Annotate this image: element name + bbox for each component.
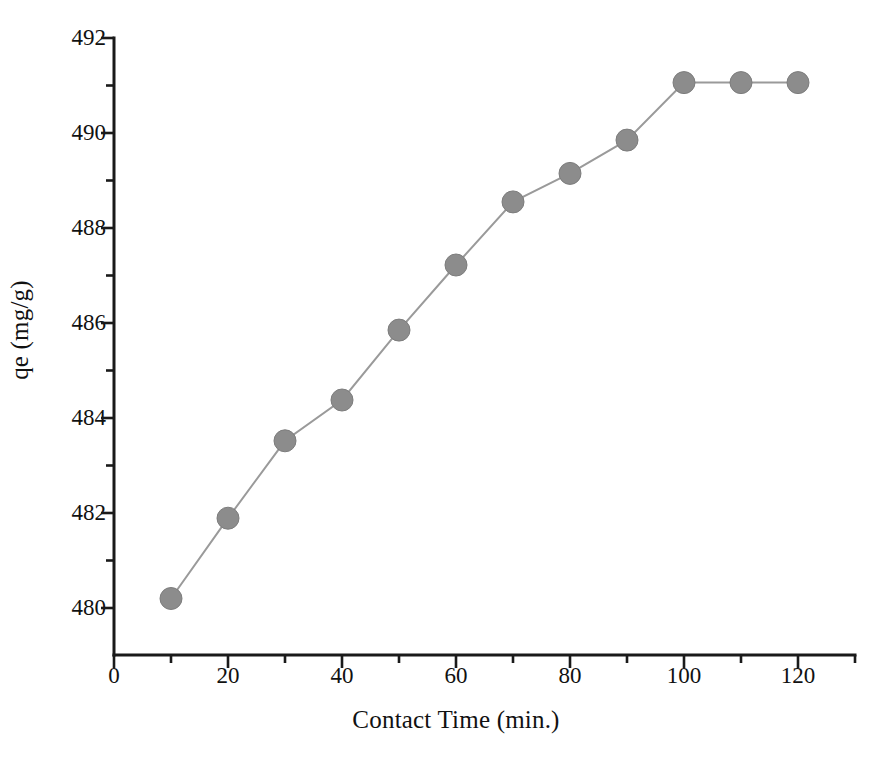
- data-point-80: [559, 162, 581, 184]
- data-point-90: [616, 129, 638, 151]
- data-point-100: [673, 72, 695, 94]
- data-point-10: [160, 588, 182, 610]
- data-point-50: [388, 319, 410, 341]
- series-line-qe: [171, 83, 798, 599]
- data-point-30: [274, 430, 296, 452]
- ticks-group: [101, 38, 855, 668]
- data-point-110: [730, 72, 752, 94]
- chart-figure: qe (mg/g) Contact Time (min.) 4804824844…: [0, 0, 877, 765]
- data-point-120: [787, 72, 809, 94]
- data-point-40: [331, 389, 353, 411]
- data-point-70: [502, 191, 524, 213]
- plot-area: [0, 0, 877, 765]
- data-series-qe: [160, 72, 809, 610]
- data-point-20: [217, 507, 239, 529]
- axes-group: [114, 38, 855, 655]
- data-point-60: [445, 254, 467, 276]
